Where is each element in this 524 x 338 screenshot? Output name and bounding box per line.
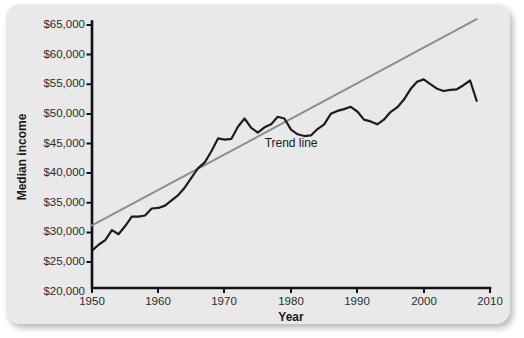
y-tick-label-30000: $30,000 — [43, 225, 85, 237]
y-tick-label-25000: $25,000 — [43, 255, 85, 267]
y-tick-label-65000: $65,000 — [43, 18, 85, 30]
median-income-series — [92, 79, 477, 250]
axis-lines — [92, 22, 490, 289]
x-axis-title: Year — [278, 310, 304, 324]
y-tick-label-60000: $60,000 — [43, 48, 85, 60]
x-tick-label-2000: 2000 — [411, 295, 437, 307]
trend-line-label: Trend line — [265, 136, 318, 150]
y-tick-label-50000: $50,000 — [43, 107, 85, 119]
median-income-line-chart: $65,000 $60,000 $55,000 $50,000 $45,000 … — [6, 4, 510, 324]
trend-line-series — [92, 19, 477, 225]
x-tick-label-1950: 1950 — [79, 295, 105, 307]
x-tick-label-2010: 2010 — [477, 295, 503, 307]
x-tick-label-1970: 1970 — [211, 295, 237, 307]
x-tick-label-1980: 1980 — [278, 295, 304, 307]
y-tick-label-40000: $40,000 — [43, 166, 85, 178]
y-axis-tick-labels: $65,000 $60,000 $55,000 $50,000 $45,000 … — [43, 18, 85, 297]
y-tick-label-55000: $55,000 — [43, 77, 85, 89]
x-axis-tick-labels: 1950 1960 1970 1980 1990 2000 2010 — [79, 295, 503, 307]
chart-card: $65,000 $60,000 $55,000 $50,000 $45,000 … — [6, 4, 510, 324]
y-axis-title: Median income — [15, 113, 29, 200]
y-tick-label-45000: $45,000 — [43, 137, 85, 149]
x-tick-label-1960: 1960 — [145, 295, 171, 307]
x-tick-label-1990: 1990 — [344, 295, 370, 307]
y-tick-label-35000: $35,000 — [43, 196, 85, 208]
